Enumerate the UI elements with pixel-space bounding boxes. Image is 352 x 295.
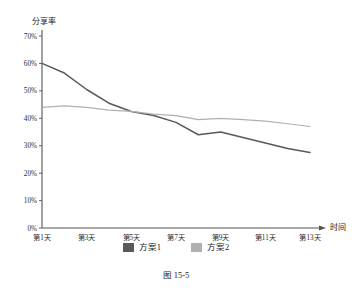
y-tick-label: 50% [24,87,37,95]
data-series-group [42,63,310,152]
x-tick-label: 第1天 [33,233,51,242]
legend-label: 方案1 [139,243,161,252]
series-line-2 [42,106,310,127]
legend-item-1[interactable]: 方案1 [123,243,161,252]
y-tick-label: 20% [24,170,37,178]
y-tick-label: 0% [27,225,37,233]
y-tick-label: 70% [24,33,37,41]
x-axis: 第1天第3天第5天第7天第9天第11天第13天 [33,225,326,242]
y-tick-label: 60% [24,60,37,68]
legend-swatch-icon [123,243,134,252]
legend-item-2[interactable]: 方案2 [191,243,229,252]
x-tick-label: 第11天 [255,233,276,242]
figure-caption: 图 15-5 [0,268,352,280]
y-axis-title: 分享率 [32,16,56,26]
y-axis: 0%10%20%30%40%50%60%70% [24,30,42,233]
x-tick-label: 第5天 [123,233,141,242]
figure-container: 0%10%20%30%40%50%60%70% 第1天第3天第5天第7天第9天第… [0,0,352,295]
x-tick-label: 第7天 [167,233,185,242]
y-tick-label: 10% [24,197,37,205]
x-axis-title: 时间 [330,222,346,232]
legend-label: 方案2 [207,243,229,252]
line-chart: 0%10%20%30%40%50%60%70% 第1天第3天第5天第7天第9天第… [0,0,352,268]
chart-legend: 方案1方案2 [0,243,352,252]
x-tick-label: 第3天 [78,233,96,242]
x-tick-label: 第13天 [299,233,320,242]
y-tick-label: 40% [24,115,37,123]
series-line-1 [42,63,310,152]
y-tick-label: 30% [24,142,37,150]
legend-swatch-icon [191,243,202,252]
x-tick-label: 第9天 [212,233,230,242]
